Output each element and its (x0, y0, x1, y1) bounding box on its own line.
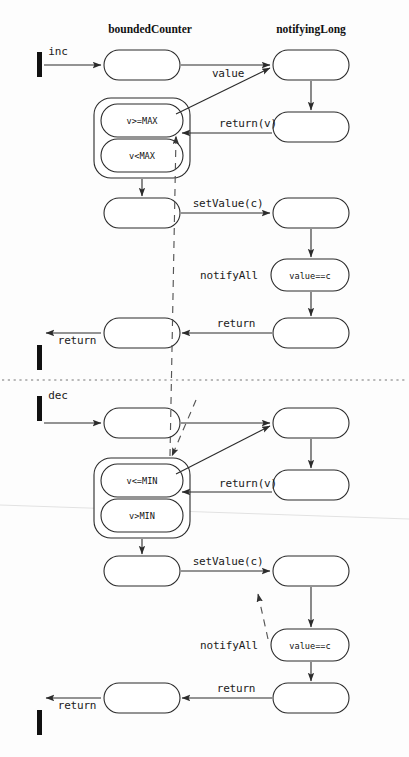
message-arrow (176, 426, 270, 474)
message-label: value (212, 67, 244, 80)
activation-box (273, 556, 349, 586)
composite-state: v<=MINv>MIN (94, 458, 190, 538)
activation-box (273, 470, 349, 500)
activation-box (104, 50, 180, 80)
uml-sequence-diagram: v>=MAXv<MAXv<=MINv>MIN value==cvalue==c … (0, 0, 409, 757)
scan-artifact (0, 505, 409, 519)
activation-box (104, 408, 180, 438)
message-label: notifyAll (200, 639, 258, 652)
endpoint-bar (37, 52, 42, 77)
activation-box (273, 318, 349, 348)
activation-box (273, 50, 349, 80)
trigger-label: inc (48, 45, 67, 58)
diagram-canvas: v>=MAXv<MAXv<=MINv>MIN value==cvalue==c … (0, 0, 409, 757)
lane-title: notifyingLong (276, 23, 346, 36)
scan-artifact-layer (0, 505, 409, 519)
value-state-label: value==c (289, 271, 330, 281)
activation-box (104, 198, 180, 228)
message-label: return(v) (219, 117, 277, 130)
message-label: setValue(c) (193, 197, 264, 210)
lane-title: boundedCounter (108, 23, 192, 35)
message-label: return (217, 682, 256, 695)
activation-box (104, 318, 180, 348)
activation-box (273, 408, 349, 438)
guard-state-label: v>MIN (129, 511, 155, 521)
message-label: notifyAll (200, 269, 258, 282)
endpoint-bar-layer (37, 52, 42, 735)
guard-state-label: v>=MAX (126, 116, 158, 126)
value-state: value==c (271, 259, 349, 291)
activation-box (104, 683, 180, 713)
endpoint-bar (37, 710, 42, 735)
message-label: return (217, 317, 256, 330)
activation-box (104, 556, 180, 586)
dashed-notify-arrow (170, 136, 176, 456)
guard-state-label: v<MAX (129, 151, 156, 161)
guard-state-label: v<=MIN (126, 476, 157, 486)
trigger-label: dec (48, 389, 67, 402)
message-label: setValue(c) (193, 555, 264, 568)
message-label: return(v) (219, 477, 277, 490)
dashed-notify-arrow (258, 594, 268, 639)
return-label: return (58, 334, 97, 347)
activation-box (273, 112, 349, 142)
return-label: return (58, 699, 97, 712)
value-state-label: value==c (289, 641, 330, 651)
activation-box (273, 683, 349, 713)
value-state: value==c (271, 629, 349, 661)
activation-box (273, 198, 349, 228)
endpoint-bar (37, 345, 42, 370)
endpoint-bar (37, 396, 42, 421)
